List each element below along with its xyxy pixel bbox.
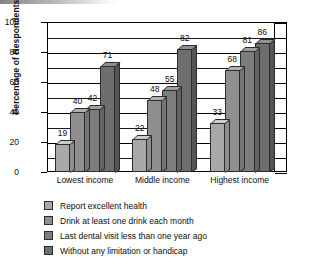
bar-side [270, 40, 275, 172]
bar-side [255, 47, 260, 172]
legend-label: Drink at least one drink each month [60, 216, 194, 226]
legend-item[interactable]: Without any limitation or handicap [44, 243, 284, 258]
bar-side [147, 136, 152, 172]
legend-label: Last dental visit less than one year ago [60, 231, 207, 241]
bar-value-label: 22 [135, 123, 144, 133]
legend-swatch [44, 231, 53, 240]
bar-value-label: 19 [58, 128, 67, 138]
y-axis-tick-mark [41, 172, 47, 173]
x-axis-label: Lowest income [57, 175, 114, 185]
y-axis-tick-label: 20 [10, 137, 19, 147]
legend-item[interactable]: Drink at least one drink each month [44, 213, 284, 228]
bar-side [225, 119, 230, 172]
y-axis-tick-label: 0 [14, 167, 19, 177]
bar-value-label: 68 [227, 54, 236, 64]
bar-side [85, 109, 90, 172]
bar-value-label: 33 [212, 107, 221, 117]
bar-front [210, 123, 225, 173]
bar-value-label: 82 [180, 33, 189, 43]
bar-groups: 194042712248558233688186 [47, 22, 287, 172]
x-axis-category-labels: Lowest incomeMiddle incomeHighest income [47, 175, 287, 189]
bar-value-label: 55 [165, 74, 174, 84]
y-axis-tick-label: 40 [10, 107, 19, 117]
legend-swatch [44, 201, 53, 210]
legend-label: Report excellent health [60, 201, 147, 211]
bar-value-label: 40 [73, 96, 82, 106]
bar-front [55, 144, 70, 173]
tick-mark [275, 173, 287, 174]
bar-chart: Percentage of Respondents 020406080100 1… [0, 0, 310, 196]
bar-side [70, 140, 75, 172]
legend-swatch [44, 216, 53, 225]
bar-side [240, 67, 245, 172]
bar-value-label: 86 [257, 27, 266, 37]
bar-side [115, 62, 120, 172]
bar-value-label: 71 [103, 50, 112, 60]
bar[interactable]: 19 [55, 144, 70, 173]
bar-side [177, 86, 182, 172]
legend-swatch [44, 246, 53, 255]
bar-group: 22485582 [132, 22, 198, 172]
legend-item[interactable]: Report excellent health [44, 198, 284, 213]
bar-side [162, 97, 167, 172]
bar-value-label: 42 [88, 93, 97, 103]
bar-group: 19404271 [55, 22, 121, 172]
bar-value-label: 81 [242, 35, 251, 45]
chart-page: Percentage of Respondents 020406080100 1… [0, 0, 310, 266]
bar-group: 33688186 [210, 22, 276, 172]
legend-item[interactable]: Last dental visit less than one year ago [44, 228, 284, 243]
chart-legend: Report excellent healthDrink at least on… [44, 198, 284, 258]
bar-side [192, 46, 197, 172]
bar[interactable]: 22 [132, 139, 147, 172]
y-axis-tick-label: 100 [5, 17, 19, 27]
legend-label: Without any limitation or handicap [60, 246, 188, 256]
bar[interactable]: 33 [210, 123, 225, 173]
y-axis-tick-label: 60 [10, 77, 19, 87]
y-axis-tick-label: 80 [10, 47, 19, 57]
bar-value-label: 48 [150, 84, 159, 94]
bar-front [132, 139, 147, 172]
x-axis-label: Highest income [210, 175, 269, 185]
bar-side [100, 106, 105, 172]
x-axis-label: Middle income [135, 175, 190, 185]
